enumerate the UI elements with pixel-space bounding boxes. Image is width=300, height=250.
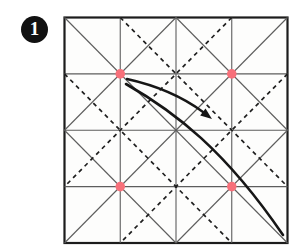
step-badge: 1 <box>21 16 48 43</box>
fold-reference-dot <box>115 182 125 192</box>
fold-reference-dot <box>227 182 237 192</box>
fold-reference-dot <box>227 69 237 79</box>
origami-diagram: 1 <box>0 0 300 250</box>
step-number: 1 <box>30 19 40 38</box>
fold-reference-dot <box>115 69 125 79</box>
